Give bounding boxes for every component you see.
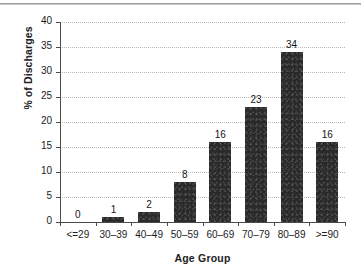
- x-tick-mark: [238, 222, 239, 226]
- y-tick-label: 0: [6, 215, 52, 226]
- y-tick-mark: [56, 147, 60, 148]
- y-tick-label: 5: [6, 190, 52, 201]
- x-tick-label: 70–79: [238, 229, 274, 240]
- y-tick-mark: [56, 72, 60, 73]
- x-tick-mark: [203, 222, 204, 226]
- bar-slot[interactable]: 0: [60, 22, 96, 222]
- bar[interactable]: [174, 182, 196, 222]
- y-tick-mark: [56, 222, 60, 223]
- x-tick-mark: [345, 222, 346, 226]
- x-tick-label: 60–69: [203, 229, 239, 240]
- y-tick-label: 35: [6, 40, 52, 51]
- bar-series: 012816233416: [60, 22, 345, 222]
- bar-slot[interactable]: 1: [96, 22, 132, 222]
- x-axis-title: Age Group: [60, 252, 345, 264]
- x-tick-label: >=90: [309, 229, 345, 240]
- x-tick-label: 40–49: [131, 229, 167, 240]
- bar-slot[interactable]: 16: [203, 22, 239, 222]
- x-axis-tick-marks: [60, 222, 345, 227]
- y-tick-mark: [56, 122, 60, 123]
- bar[interactable]: [138, 212, 160, 222]
- y-tick-label: 40: [6, 15, 52, 26]
- bar[interactable]: [209, 142, 231, 222]
- bar-value-label: 16: [309, 129, 345, 140]
- bar-value-label: 0: [60, 209, 96, 220]
- bar-slot[interactable]: 16: [309, 22, 345, 222]
- y-tick-mark: [56, 197, 60, 198]
- y-tick-mark: [56, 22, 60, 23]
- bar-value-label: 23: [238, 94, 274, 105]
- x-tick-mark: [131, 222, 132, 226]
- x-tick-label: <=29: [60, 229, 96, 240]
- x-tick-label: 30–39: [96, 229, 132, 240]
- bar-slot[interactable]: 23: [238, 22, 274, 222]
- top-divider-rule: [0, 3, 361, 5]
- x-tick-mark: [60, 222, 61, 226]
- bar-value-label: 1: [96, 204, 132, 215]
- y-tick-label: 10: [6, 165, 52, 176]
- bar[interactable]: [281, 52, 303, 222]
- bar-chart-figure: % of Discharges Age Group 40353025201510…: [0, 0, 361, 277]
- y-tick-label: 20: [6, 115, 52, 126]
- x-tick-mark: [96, 222, 97, 226]
- y-axis-tick-labels: 4035302520151050: [0, 22, 52, 223]
- y-tick-mark: [56, 97, 60, 98]
- bar[interactable]: [245, 107, 267, 222]
- y-tick-label: 15: [6, 140, 52, 151]
- bar-value-label: 34: [274, 39, 310, 50]
- y-tick-label: 30: [6, 65, 52, 76]
- x-tick-label: 80–89: [274, 229, 310, 240]
- bar-slot[interactable]: 34: [274, 22, 310, 222]
- y-tick-mark: [56, 172, 60, 173]
- bar-slot[interactable]: 2: [131, 22, 167, 222]
- x-tick-mark: [274, 222, 275, 226]
- bar-slot[interactable]: 8: [167, 22, 203, 222]
- bar-value-label: 8: [167, 169, 203, 180]
- bar-value-label: 2: [131, 199, 167, 210]
- x-tick-mark: [167, 222, 168, 226]
- x-tick-mark: [309, 222, 310, 226]
- x-tick-label: 50–59: [167, 229, 203, 240]
- x-axis-category-labels: <=2930–3940–4950–5960–6970–7980–89>=90: [60, 229, 345, 240]
- y-tick-mark: [56, 47, 60, 48]
- y-tick-label: 25: [6, 90, 52, 101]
- bar[interactable]: [316, 142, 338, 222]
- bar-value-label: 16: [203, 129, 239, 140]
